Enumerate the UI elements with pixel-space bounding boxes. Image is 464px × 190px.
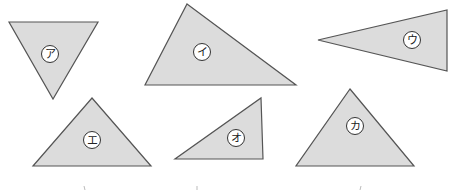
triangle-o-shape [175,98,263,159]
triangle-e: エ [33,98,151,166]
triangle-u: ウ [318,10,447,71]
triangle-ka-label: カ [350,120,361,133]
triangle-o-label: オ [231,132,242,145]
triangle-i-label: イ [197,46,208,59]
triangle-i: イ [145,4,296,85]
triangle-u-shape [318,10,447,71]
triangle-ka: カ [296,89,414,166]
triangle-o: オ [175,98,263,159]
triangle-canvas: ア イ ウ エ オ カ [0,0,464,190]
triangle-a: ア [9,22,98,99]
triangle-u-label: ウ [407,34,418,47]
triangle-a-label: ア [45,48,56,61]
triangle-figure: ア イ ウ エ オ カ [0,0,464,190]
triangle-e-label: エ [87,134,98,147]
cropped-mark [84,186,85,190]
triangle-i-shape [145,4,296,85]
cropped-mark [360,186,361,190]
